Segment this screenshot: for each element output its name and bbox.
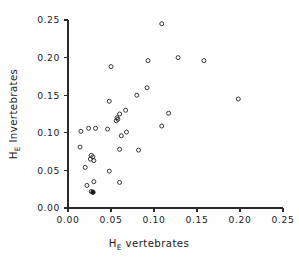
data-point [137,148,141,152]
x-tick-label: 0.15 [186,214,209,225]
data-point [118,180,122,184]
data-point [87,126,91,130]
x-axis-title: HE vertebrates [109,238,189,252]
plot-canvas: 0.000.050.100.150.200.25 0.000.050.100.1… [0,0,299,258]
data-point [85,183,89,187]
svg-text:HE Invertebrates: HE Invertebrates [8,69,22,160]
axis-title-main: H [8,151,19,159]
data-point [92,180,96,184]
data-point [94,126,98,130]
y-tick-label: 0.10 [37,127,60,138]
data-point [119,134,123,138]
x-tick-label: 0.10 [143,214,166,225]
axis-title-rest: vertebrates [122,238,189,249]
svg-text:HE vertebrates: HE vertebrates [109,238,189,252]
y-axis-title: HE Invertebrates [8,69,22,160]
y-tick-label: 0.20 [37,52,60,63]
data-point [106,127,110,131]
data-point [176,56,180,60]
data-point [236,97,240,101]
data-point [145,86,149,90]
scatter-plot-figure: 0.000.050.100.150.200.25 0.000.050.100.1… [0,0,299,258]
data-point [107,99,111,103]
data-point [160,124,164,128]
data-point [109,65,113,69]
data-point [118,147,122,151]
axis-title-main: H [109,238,117,249]
data-point [83,165,87,169]
data-point [160,22,164,26]
data-point [167,111,171,115]
data-point [79,129,83,133]
y-tick-label: 0.15 [37,90,60,101]
data-point [124,108,128,112]
axis-title-rest: Invertebrates [8,69,19,147]
x-tick-label: 0.25 [272,214,295,225]
data-point [92,159,96,163]
data-point-filled [91,190,95,194]
data-points-layer [78,22,240,195]
y-tick-label: 0.05 [37,165,60,176]
data-point [107,169,111,173]
y-tick-label: 0.00 [37,202,60,213]
axes [68,20,283,208]
y-axis-ticks: 0.000.050.100.150.200.25 [37,14,68,213]
y-tick-label: 0.25 [37,14,60,25]
data-point [118,112,122,116]
data-point [78,145,82,149]
data-point [135,93,139,97]
data-point [146,59,150,63]
x-tick-label: 0.05 [100,214,123,225]
data-point [202,59,206,63]
x-tick-label: 0.20 [229,214,252,225]
data-point [124,130,128,134]
x-tick-label: 0.00 [57,214,80,225]
x-axis-ticks: 0.000.050.100.150.200.25 [57,208,295,225]
